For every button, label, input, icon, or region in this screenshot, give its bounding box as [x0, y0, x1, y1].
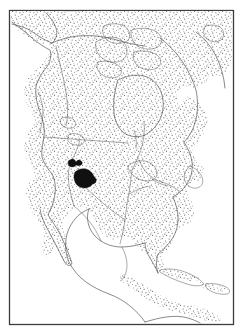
- distribution-map-figure: North America from Alaska and the Canadi…: [0, 0, 243, 333]
- map-canvas: [0, 0, 243, 333]
